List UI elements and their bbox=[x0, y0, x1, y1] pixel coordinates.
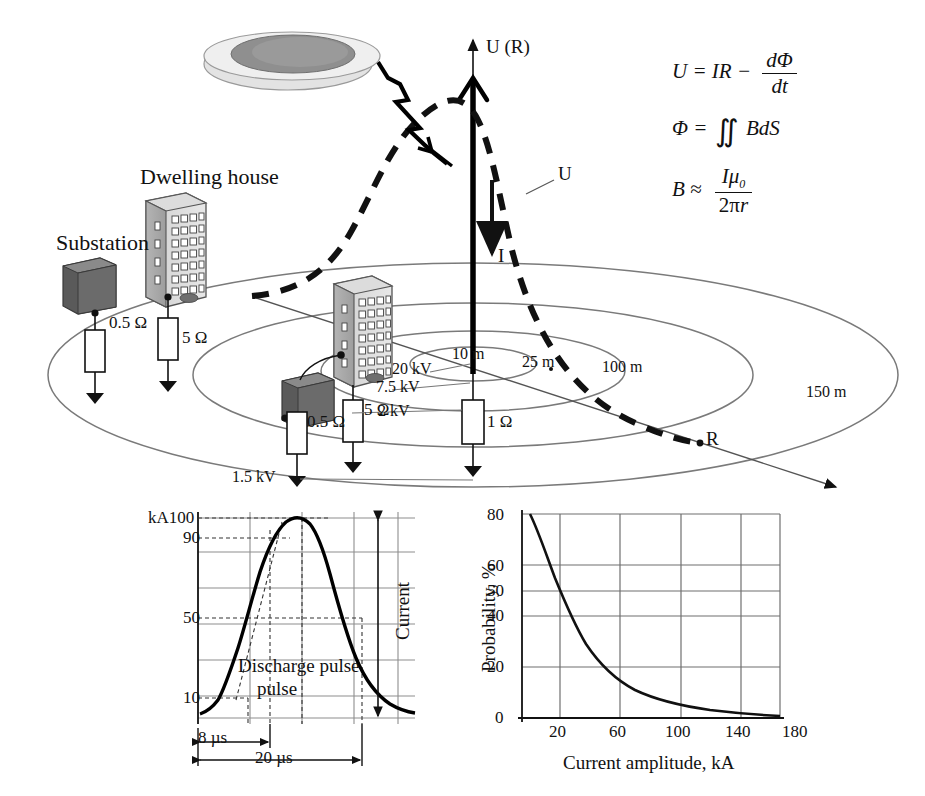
formula-b-denominator: 2πr bbox=[715, 193, 752, 218]
point-r-marker bbox=[697, 440, 704, 447]
voltage-7-5kv-label: 7.5 kV bbox=[376, 378, 420, 396]
formula-u-lhs: U = IR − bbox=[672, 59, 751, 83]
dwelling-house-1-grounding bbox=[158, 297, 178, 392]
formula-b-den-a: 2 bbox=[719, 193, 730, 217]
figure-root: Substation Dwelling house U (R) I U R 0.… bbox=[0, 0, 925, 796]
probability-ytick-80: 80 bbox=[487, 505, 504, 525]
strike-point-resistor-label: 1 Ω bbox=[487, 412, 512, 432]
probability-xtick-180: 180 bbox=[782, 722, 808, 742]
formula-u-numerator: dΦ bbox=[762, 48, 797, 74]
substation-1-grounding bbox=[85, 313, 105, 404]
formula-block: U = IR − dΦ dt Φ = ∬ BdS B ≈ Iμ0 2πr bbox=[672, 48, 797, 218]
probability-y-axis-label: Probability, % bbox=[478, 563, 500, 672]
formula-phi-lhs: Φ = bbox=[672, 116, 707, 140]
formula-b-den-b: r bbox=[740, 193, 748, 217]
formula-phi: Φ = ∬ BdS bbox=[672, 113, 797, 148]
point-r-label: R bbox=[706, 428, 719, 450]
probability-xtick-140: 140 bbox=[725, 722, 751, 742]
lightning-channel-axis bbox=[459, 40, 487, 374]
formula-phi-rhs: BdS bbox=[746, 116, 780, 140]
ring-10m-label: 10 m bbox=[452, 345, 484, 363]
discharge-ytick-90: 90 bbox=[183, 528, 200, 548]
formula-b-num-sub: 0 bbox=[739, 177, 745, 191]
dwelling-house-2-icon bbox=[334, 276, 392, 387]
substation-1-label: Substation bbox=[56, 230, 149, 256]
probability-x-axis-label: Current amplitude, kA bbox=[563, 752, 735, 774]
probability-xtick-20: 20 bbox=[549, 722, 566, 742]
formula-b-lhs: B ≈ bbox=[672, 177, 702, 201]
probability-xtick-100: 100 bbox=[665, 722, 691, 742]
discharge-pulse-title-line2: pulse bbox=[257, 678, 297, 700]
discharge-pulse-chart bbox=[130, 500, 450, 790]
u-of-r-label: U (R) bbox=[486, 36, 530, 58]
dwelling-house-label: Dwelling house bbox=[140, 164, 279, 190]
probability-curve bbox=[530, 514, 780, 716]
voltage-20kv-label: 20 kV bbox=[392, 360, 432, 378]
cloud-icon bbox=[204, 32, 380, 90]
formula-u-denominator: dt bbox=[762, 74, 797, 99]
substation-1-icon bbox=[63, 258, 116, 317]
formula-b: B ≈ Iμ0 2πr bbox=[672, 164, 797, 218]
discharge-20us-label: 20 µs bbox=[255, 748, 293, 768]
formula-b-den-pi: π bbox=[729, 193, 740, 217]
probability-grid bbox=[522, 514, 780, 718]
formula-b-num-text: Iμ bbox=[722, 164, 740, 188]
ring-150m-label: 150 m bbox=[806, 383, 846, 401]
discharge-ytick-50: 50 bbox=[183, 608, 200, 628]
discharge-ytick-10: 10 bbox=[183, 688, 200, 708]
lightning-bolt-icon bbox=[378, 62, 452, 166]
discharge-ytick-100: kA100 bbox=[148, 508, 194, 528]
discharge-pulse-title-line1: Discharge pulse bbox=[238, 655, 360, 677]
substation-2-resistor-label: 0.5 Ω bbox=[307, 412, 345, 432]
ring-100m-label: 100 m bbox=[602, 358, 642, 376]
discharge-8us-label: 8 µs bbox=[198, 728, 227, 748]
formula-b-numerator: Iμ0 bbox=[715, 164, 752, 193]
probability-chart bbox=[460, 500, 820, 790]
probability-ytick-0: 0 bbox=[495, 708, 504, 728]
ring-25m-label: 25 m bbox=[522, 353, 554, 371]
house-1-resistor-label: 5 Ω bbox=[182, 328, 207, 348]
discharge-pulse-curve bbox=[200, 518, 415, 714]
voltage-2kv-label: 2 kV bbox=[378, 402, 410, 420]
double-integral-icon: ∬ bbox=[715, 114, 739, 147]
formula-u: U = IR − dΦ dt bbox=[672, 48, 797, 99]
current-label: I bbox=[498, 245, 504, 267]
substation-1-resistor-label: 0.5 Ω bbox=[109, 313, 147, 333]
probability-xtick-60: 60 bbox=[609, 722, 626, 742]
dwelling-house-1-icon bbox=[146, 193, 206, 307]
strike-point-grounding bbox=[462, 374, 484, 477]
discharge-current-axis-label: Current bbox=[392, 582, 414, 640]
voltage-curve-leader bbox=[524, 176, 564, 200]
voltage-1-5kv-label: 1.5 kV bbox=[232, 468, 276, 486]
